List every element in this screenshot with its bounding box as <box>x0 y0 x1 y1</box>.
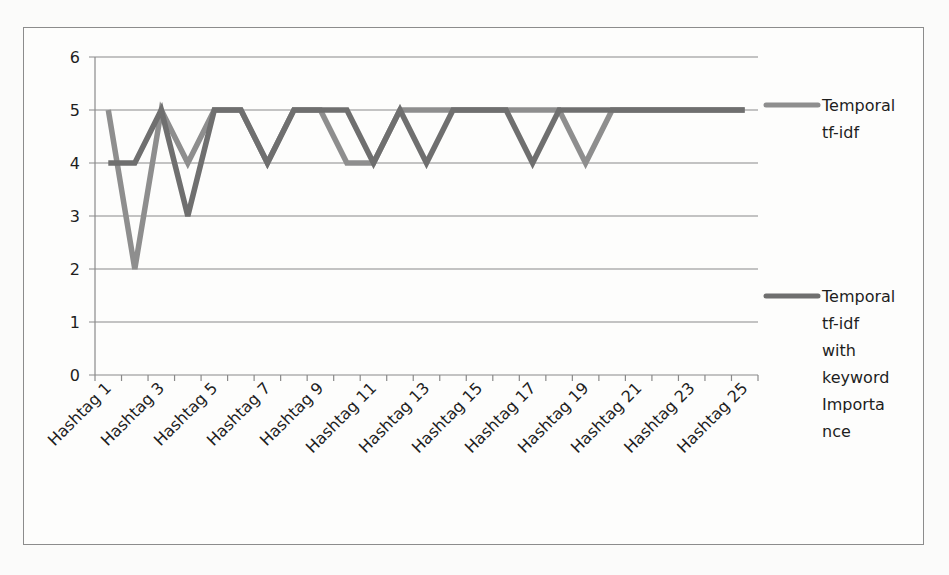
legend-label-line: tf-idf <box>822 123 859 142</box>
y-tick-label: 4 <box>70 154 80 173</box>
legend: Temporaltf-idfTemporaltf-idfwithkeywordI… <box>766 96 895 441</box>
series-line-1 <box>108 110 744 269</box>
y-tick-label: 5 <box>70 101 80 120</box>
legend-label-line: Temporal <box>821 96 895 115</box>
x-axis-labels: Hashtag 1Hashtag 3Hashtag 5Hashtag 7Hash… <box>44 378 752 456</box>
y-tick-label: 1 <box>70 313 80 332</box>
legend-label-line: keyword <box>822 368 889 387</box>
legend-label-line: with <box>822 341 856 360</box>
legend-item-1: Temporaltf-idf <box>766 96 895 142</box>
legend-label-line: nce <box>822 422 851 441</box>
legend-item-2: Temporaltf-idfwithkeywordImportance <box>766 287 895 441</box>
y-axis-labels: 0123456 <box>70 48 80 385</box>
legend-label-line: Temporal <box>821 287 895 306</box>
y-tick-label: 0 <box>70 366 80 385</box>
y-tick-label: 3 <box>70 207 80 226</box>
y-tick-label: 2 <box>70 260 80 279</box>
line-chart: 0123456 Hashtag 1Hashtag 3Hashtag 5Hasht… <box>0 0 949 575</box>
legend-label-line: Importa <box>822 395 885 414</box>
y-tick-label: 6 <box>70 48 80 67</box>
legend-label-line: tf-idf <box>822 314 859 333</box>
series-lines <box>108 110 744 269</box>
x-axis <box>95 57 758 381</box>
